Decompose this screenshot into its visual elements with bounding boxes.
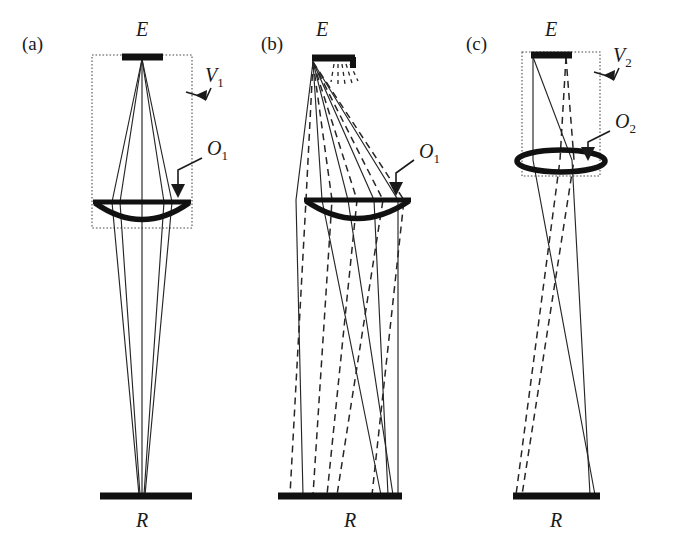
panel-b-optic-label: O1 [419,140,440,166]
panel-c-optic-label: O2 [615,110,636,136]
panel-b-label: (b) [261,33,283,55]
panel-a-label: (a) [22,33,43,55]
panel-c-dashed-rays [516,57,574,495]
figure-root: (a) E R V1 O1 [0,0,673,537]
panel-a-volume-label: V1 [205,64,224,90]
panel-b-dashed-rays [290,62,404,495]
panel-c-receiver-label: R [549,509,562,531]
panel-a-receiver-label: R [135,509,148,531]
panel-a-volume-callout [186,88,211,101]
panel-c-solid-rays [533,57,595,495]
panel-a-optic-callout [171,158,202,198]
panel-b-lens-O1 [304,200,411,219]
panel-a-emitter-label: E [135,18,148,40]
panel-c-volume-label: V2 [613,44,632,70]
panel-b-receiver-label: R [343,509,356,531]
panel-c-volume-callout [594,68,619,81]
panel-b-emitter-label: E [315,18,328,40]
optical-diagram-svg: (a) E R V1 O1 [0,0,673,537]
panel-a-solid-rays [112,59,172,495]
panel-c-emitter-label: E [544,18,557,40]
panel-c: (c) E R V2 O2 [466,18,636,531]
panel-c-label: (c) [466,33,487,55]
panel-b: (b) E R O1 [261,18,440,531]
panel-a-optic-label: O1 [207,137,228,163]
panel-a: (a) E R V1 O1 [22,18,228,531]
